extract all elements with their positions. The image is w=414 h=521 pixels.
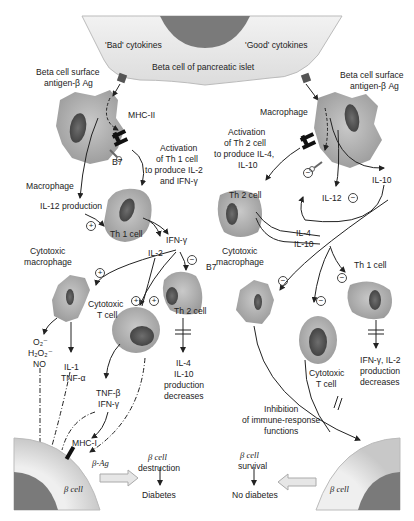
minus-icon: − — [337, 273, 347, 283]
right-b7-label: B7 — [206, 262, 217, 272]
right-dec-2: production — [360, 366, 400, 376]
right-th1-cell — [347, 281, 392, 319]
top-beta-cell — [82, 16, 342, 85]
left-outcome-1: β cell — [148, 452, 167, 462]
ifn-gamma-label: IFN-γ — [166, 235, 187, 245]
right-th2-label: Th 2 cell — [229, 190, 261, 200]
right-cyto-t-2: T cell — [316, 379, 336, 389]
th2-activation-3: to produce IL-4, — [214, 149, 274, 159]
left-cytotoxic-t-cell — [112, 307, 160, 353]
right-il4-label: IL-4 — [296, 228, 311, 238]
radicals-2: H₂O₂⁻ — [28, 348, 53, 358]
left-outcome-2: destruction — [138, 463, 180, 473]
mhc1-label: MHC-I — [72, 438, 97, 448]
mhc2-label: MHC-II — [128, 110, 155, 120]
il2-label: IL-2 — [148, 248, 163, 258]
inhibition-1: Inhibition — [264, 404, 298, 414]
inhibition-2: of immune-response — [242, 415, 320, 425]
top-cell-label: Beta cell of pancreatic islet — [152, 62, 254, 72]
il1-label: IL-1 — [64, 362, 79, 372]
left-beta-cell-label: β cell — [64, 484, 83, 494]
right-cytotoxic-t-cell — [299, 316, 337, 364]
th1-activation-1: Activation — [160, 143, 197, 153]
right-cytotoxic-macrophage — [236, 280, 274, 324]
left-cyto-t-1: Cytotoxic — [88, 299, 123, 309]
minus-icon: − — [278, 276, 288, 286]
left-cyto-mac-2: macrophage — [24, 257, 72, 267]
th2-activation-4: IL-10 — [238, 160, 258, 170]
destruction-arrow — [100, 470, 138, 486]
right-cyto-t-1: Cytotoxic — [309, 368, 344, 378]
right-beta-cell-label: β cell — [330, 484, 349, 494]
b7-label: B7 — [112, 157, 123, 167]
left-cyto-t-2: T cell — [97, 310, 117, 320]
survival-arrow — [278, 474, 316, 490]
radicals-1: O₂⁻ — [33, 337, 48, 347]
tnf-alpha-label: TNF-α — [61, 373, 86, 383]
th1-activation-3: to produce IL-2 — [145, 165, 203, 175]
il12-production-label: IL-12 production — [40, 201, 102, 211]
th2-activation-2: of Th 2 cell — [224, 138, 266, 148]
right-outcome-2: survival — [238, 461, 267, 471]
left-ifn-gamma-2-label: IFN-γ — [98, 399, 119, 409]
th1-activation-2: of Th 1 cell — [156, 154, 198, 164]
right-macrophage — [300, 92, 382, 172]
left-th2-label: Th 2 cell — [174, 306, 206, 316]
right-cyto-mac-1: Cytotoxic — [222, 246, 257, 256]
th2-activation-1: Activation — [228, 127, 265, 137]
left-dec-2: IL-10 — [174, 369, 194, 379]
right-bottom-beta-cell — [316, 438, 400, 510]
right-cyto-mac-2: macrophage — [216, 257, 264, 267]
right-antigen-marker — [301, 73, 311, 83]
left-th1-label: Th 1 cell — [110, 229, 142, 239]
left-cyto-mac-1: Cytotoxic — [30, 246, 65, 256]
left-macrophage-label: Macrophage — [26, 181, 74, 191]
right-antigen-label-1: Beta cell surface — [340, 70, 404, 80]
right-dec-1: IFN-γ, IL-2 — [360, 355, 401, 365]
right-outcome-1: β cell — [240, 450, 259, 460]
right-outcome-3: No diabetes — [232, 490, 278, 500]
left-antigen-label-1: Beta cell surface — [36, 67, 100, 77]
right-antigen-label-2: antigen-β Ag — [350, 81, 399, 91]
plus-icon: + — [86, 221, 96, 231]
right-il10b-label: IL-10 — [294, 239, 314, 249]
left-outcome-3: Diabetes — [142, 490, 176, 500]
minus-icon: − — [303, 168, 313, 178]
right-il10-label: IL-10 — [372, 175, 392, 185]
right-macrophage-label: Macrophage — [260, 107, 308, 117]
minus-icon: − — [316, 296, 326, 306]
left-dec-1: IL-4 — [176, 358, 191, 368]
left-bottom-beta-cell — [14, 438, 100, 510]
tnf-beta-label: TNF-β — [96, 388, 121, 398]
left-dec-4: decreases — [164, 391, 204, 401]
right-dec-3: decreases — [360, 377, 400, 387]
beta-ag-label: β-Ag — [92, 458, 109, 468]
right-th1-label: Th 1 cell — [354, 260, 386, 270]
bad-cytokines-label: 'Bad' cytokines — [105, 40, 162, 50]
minus-icon: − — [348, 193, 358, 203]
plus-icon: + — [131, 296, 141, 306]
left-macrophage — [56, 90, 128, 164]
th1-activation-4: and IFN-γ — [160, 176, 198, 186]
inhibition-3: functions — [264, 426, 298, 436]
minus-icon: − — [187, 255, 197, 265]
radicals-3: NO — [33, 359, 46, 369]
good-cytokines-label: 'Good' cytokines — [245, 40, 308, 50]
left-cytotoxic-macrophage — [52, 275, 90, 322]
plus-icon: + — [95, 268, 105, 278]
left-dec-3: production — [164, 380, 204, 390]
plus-icon: + — [149, 296, 159, 306]
right-il12-label: IL-12 — [322, 193, 342, 203]
left-antigen-label-2: antigen-β Ag — [44, 78, 93, 88]
